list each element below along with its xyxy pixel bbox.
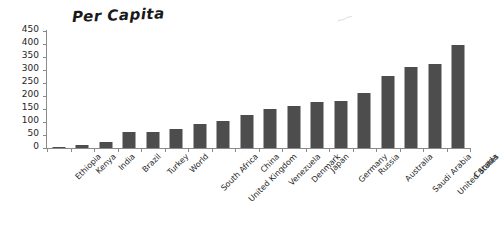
x-axis-label: Turkey bbox=[166, 152, 191, 177]
y-axis-tick-label: 250 bbox=[22, 76, 39, 86]
x-axis-tick-mark bbox=[423, 148, 424, 152]
bar-slot bbox=[47, 31, 71, 148]
plot-area bbox=[47, 31, 470, 148]
bar-slot bbox=[306, 31, 330, 148]
x-axis-label: India bbox=[117, 152, 137, 172]
x-axis-tick-mark bbox=[188, 148, 189, 152]
bar-slot bbox=[447, 31, 471, 148]
bar-slot bbox=[282, 31, 306, 148]
x-axis-tick-mark bbox=[47, 148, 48, 152]
x-axis-tick-mark bbox=[141, 148, 142, 152]
bar bbox=[381, 76, 394, 148]
x-axis-tick-mark bbox=[71, 148, 72, 152]
bar bbox=[240, 115, 253, 148]
x-axis-tick-mark bbox=[235, 148, 236, 152]
bar-slot bbox=[259, 31, 283, 148]
bar bbox=[405, 67, 418, 148]
x-axis-tick-mark bbox=[447, 148, 448, 152]
x-axis-label: World bbox=[188, 152, 211, 175]
bar-slot bbox=[188, 31, 212, 148]
bar-slot bbox=[235, 31, 259, 148]
bar-slot bbox=[329, 31, 353, 148]
x-axis-label: Australia bbox=[403, 152, 434, 183]
bar bbox=[193, 124, 206, 148]
x-axis-label: South Africa bbox=[219, 152, 260, 193]
x-axis-label: Brazil bbox=[141, 152, 163, 174]
x-axis-tick-mark bbox=[212, 148, 213, 152]
y-axis-tick-label: 350 bbox=[22, 50, 39, 60]
x-axis-tick-mark bbox=[118, 148, 119, 152]
bar-slot bbox=[353, 31, 377, 148]
y-axis-tick-label: 0 bbox=[33, 141, 39, 151]
y-axis-tick-label: 300 bbox=[22, 63, 39, 73]
x-axis-tick-mark bbox=[376, 148, 377, 152]
y-axis-tick-label: 100 bbox=[22, 115, 39, 125]
bar bbox=[146, 132, 159, 148]
x-axis-tick-mark bbox=[306, 148, 307, 152]
bar bbox=[76, 145, 89, 148]
x-axis-tick-mark bbox=[282, 148, 283, 152]
x-axis-tick-mark bbox=[353, 148, 354, 152]
pencil-smudge-artifact: ⁓⁓ bbox=[335, 12, 352, 24]
bar-slot bbox=[400, 31, 424, 148]
bar bbox=[264, 109, 277, 148]
bar bbox=[170, 129, 183, 149]
bar-slot bbox=[165, 31, 189, 148]
x-axis-tick-mark bbox=[400, 148, 401, 152]
x-axis-tick-mark bbox=[259, 148, 260, 152]
bar bbox=[428, 64, 441, 149]
bar bbox=[311, 102, 324, 148]
bar-slot bbox=[212, 31, 236, 148]
bar bbox=[99, 142, 112, 149]
bar-slot bbox=[94, 31, 118, 148]
x-axis-tick-mark bbox=[470, 148, 471, 152]
bar-slot bbox=[141, 31, 165, 148]
bar bbox=[334, 101, 347, 148]
bar-slot bbox=[118, 31, 142, 148]
bar bbox=[287, 106, 300, 148]
y-axis-tick-label: 400 bbox=[22, 37, 39, 47]
bar-slot bbox=[71, 31, 95, 148]
bar bbox=[217, 121, 230, 148]
x-axis-tick-mark bbox=[94, 148, 95, 152]
y-axis-tick-label: 200 bbox=[22, 89, 39, 99]
bar bbox=[52, 147, 65, 148]
bar-slot bbox=[376, 31, 400, 148]
bar-slot bbox=[423, 31, 447, 148]
x-axis-tick-mark bbox=[165, 148, 166, 152]
x-axis-tick-mark bbox=[329, 148, 330, 152]
x-axis-label: Canada bbox=[472, 152, 500, 180]
y-axis-tick-label: 50 bbox=[28, 128, 39, 138]
bar bbox=[452, 45, 465, 148]
bar bbox=[123, 132, 136, 148]
bar bbox=[358, 93, 371, 148]
chart-title: Per Capita bbox=[72, 4, 165, 26]
y-axis-tick-label: 150 bbox=[22, 102, 39, 112]
y-axis-tick-label: 450 bbox=[22, 24, 39, 34]
